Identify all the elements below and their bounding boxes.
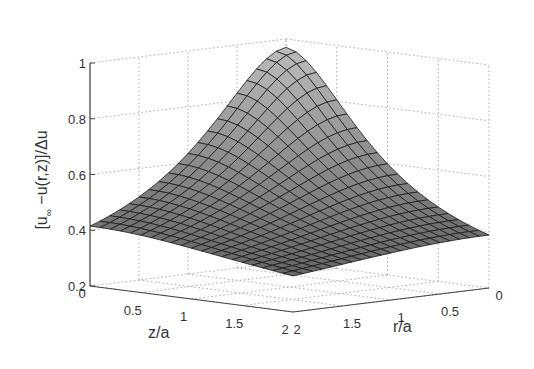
svg-text:0.5: 0.5 bbox=[124, 303, 142, 318]
svg-text:1: 1 bbox=[79, 56, 86, 71]
svg-text:2: 2 bbox=[293, 322, 300, 337]
surface-plot: 0.20.40.60.8100.511.5200.511.52 z/a r/a … bbox=[0, 0, 534, 369]
svg-text:0.6: 0.6 bbox=[68, 168, 86, 183]
surface-mesh bbox=[90, 47, 489, 276]
y-axis-label: r/a bbox=[393, 318, 412, 335]
svg-text:0: 0 bbox=[78, 286, 85, 301]
svg-text:1.5: 1.5 bbox=[225, 316, 243, 331]
svg-text:2: 2 bbox=[281, 322, 288, 337]
svg-text:1.5: 1.5 bbox=[343, 316, 361, 331]
z-axis-label: [u∞ −u(r,z)]/Δu bbox=[33, 130, 54, 229]
svg-text:[u∞ −u(r,z)]/Δu: [u∞ −u(r,z)]/Δu bbox=[33, 130, 54, 229]
svg-text:0: 0 bbox=[495, 288, 502, 303]
svg-text:0.4: 0.4 bbox=[68, 223, 86, 238]
svg-text:0.5: 0.5 bbox=[441, 304, 459, 319]
x-axis-label: z/a bbox=[148, 324, 169, 341]
svg-text:1: 1 bbox=[180, 309, 187, 324]
svg-text:0.8: 0.8 bbox=[68, 112, 86, 127]
